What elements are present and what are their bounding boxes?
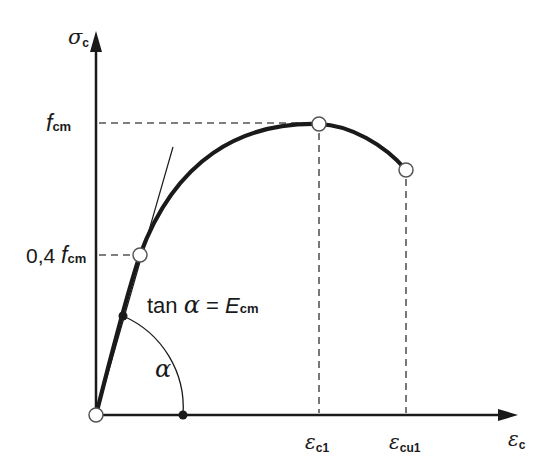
angle-end-marker	[179, 411, 188, 420]
x-axis-label: εc	[508, 427, 526, 452]
tangent-point-marker	[119, 312, 128, 321]
angle-label: α	[155, 355, 171, 383]
y-axis-arrow-icon	[90, 31, 102, 52]
04fcm-marker	[133, 248, 147, 262]
angle-arc	[123, 316, 183, 415]
stress-strain-curve	[96, 124, 406, 415]
04fcm-label: 0,4 fcm	[26, 242, 86, 268]
fcm-label: fcm	[46, 110, 71, 136]
ultimate-marker	[399, 163, 413, 177]
ecu1-label: εcu1	[389, 430, 421, 455]
x-axis-arrow-icon	[498, 409, 518, 421]
y-axis-label: σc	[68, 25, 89, 50]
stress-strain-diagram: σc fcm 0,4 fcm tan α = Ecm α εc1 εcu1 εc	[0, 0, 553, 476]
ec1-label: εc1	[305, 430, 329, 455]
origin-marker	[89, 408, 103, 422]
peak-marker	[312, 117, 326, 131]
tangent-annotation: tan α = Ecm	[147, 291, 258, 319]
